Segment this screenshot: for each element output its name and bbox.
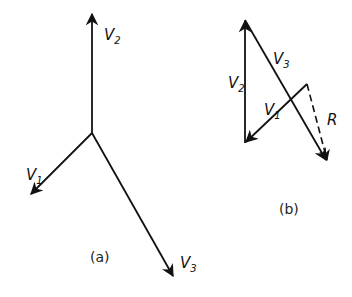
caption-b: (b) <box>279 201 299 217</box>
label-b-v1: V1 <box>264 101 281 121</box>
label-a-v3: V3 <box>180 254 197 274</box>
vector-b-r <box>307 84 327 160</box>
caption-a: (a) <box>90 249 110 265</box>
label-b-r: R <box>327 111 337 129</box>
label-b-v2: V2 <box>228 74 245 94</box>
vector-b-v3 <box>245 20 326 160</box>
label-a-v2: V2 <box>104 26 121 46</box>
diagram-b: V2 V3 V1 R (b) <box>228 20 337 217</box>
diagram-a: V2 V1 V3 (a) <box>26 14 197 276</box>
phasor-diagram: V2 V1 V3 (a) V2 V3 V1 R (b) <box>0 0 352 297</box>
label-b-v3: V3 <box>273 50 290 70</box>
label-a-v1: V1 <box>26 166 43 186</box>
